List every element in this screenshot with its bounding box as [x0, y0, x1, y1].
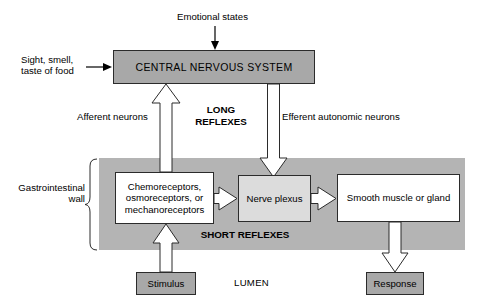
reflex-pathway-diagram: CENTRAL NERVOUS SYSTEM Chemoreceptors, o… [0, 0, 487, 307]
response-label: Response [373, 278, 416, 289]
stimulus-box: Stimulus [136, 272, 196, 295]
effector-label: Smooth muscle or gland [347, 192, 450, 203]
stimulus-label: Stimulus [148, 278, 185, 289]
nerve-plexus-label: Nerve plexus [247, 193, 303, 204]
cns-label: CENTRAL NERVOUS SYSTEM [135, 61, 292, 73]
efferent-neuron-block-arrow [260, 84, 287, 177]
nerve-plexus-box: Nerve plexus [238, 175, 311, 222]
emotional-states-arrowhead [211, 41, 219, 50]
sight-smell-arrowhead [103, 63, 112, 71]
short-reflexes-label: SHORT REFLEXES [185, 229, 305, 241]
central-nervous-system-box: CENTRAL NERVOUS SYSTEM [113, 50, 315, 84]
emotional-states-label: Emotional states [177, 11, 248, 22]
lumen-label: LUMEN [234, 277, 269, 288]
long-reflexes-label: LONG REFLEXES [189, 104, 253, 127]
sight-smell-taste-label: Sight, smell, taste of food [21, 54, 74, 77]
afferent-neurons-label: Afferent neurons [77, 111, 148, 122]
response-box: Response [366, 272, 424, 295]
receptors-label: Chemoreceptors, osmoreceptors, or mechan… [116, 181, 213, 215]
diagram-vector-layer [0, 0, 487, 307]
gastrointestinal-wall-label: Gastrointestinal wall [10, 182, 85, 205]
receptors-box: Chemoreceptors, osmoreceptors, or mechan… [115, 172, 214, 224]
smooth-muscle-or-gland-box: Smooth muscle or gland [337, 174, 460, 222]
efferent-autonomic-neurons-label: Efferent autonomic neurons [282, 111, 400, 122]
gi-wall-brace [85, 159, 97, 250]
